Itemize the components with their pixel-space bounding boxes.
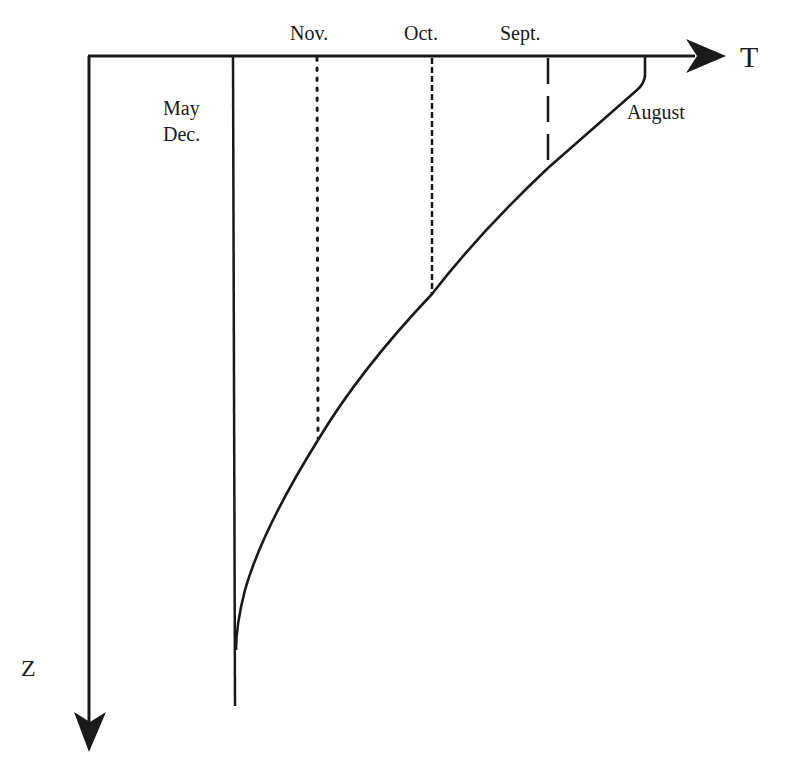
t-axis-label: T — [740, 40, 758, 73]
z-axis — [74, 56, 106, 752]
august-profile-curve — [236, 56, 645, 650]
oct-label: Oct. — [404, 22, 438, 44]
t-axis — [88, 39, 726, 73]
may-dec-profile-line — [233, 56, 235, 706]
z-axis-label: Z — [21, 655, 36, 681]
sept-label: Sept. — [500, 22, 541, 45]
nov-profile-line — [317, 58, 318, 438]
nov-label: Nov. — [290, 22, 328, 44]
may-label: May — [163, 97, 200, 120]
dec-label: Dec. — [163, 123, 200, 145]
temperature-depth-diagram: T Z May Dec. Nov. Oct. Sept. August — [0, 0, 787, 778]
august-label: August — [627, 101, 685, 124]
